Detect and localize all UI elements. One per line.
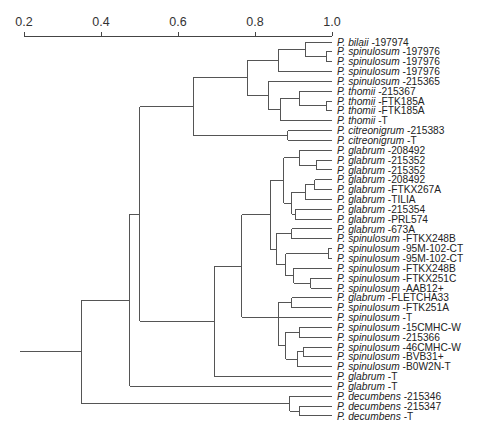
dendrogram-chart: 0.20.40.60.81.0 P. bilaii -197974P. spin… xyxy=(0,0,479,432)
similarity-axis: 0.20.40.60.81.0 xyxy=(15,15,340,36)
dendrogram-branches xyxy=(20,42,332,416)
axis-tick-label: 0.6 xyxy=(169,15,186,29)
axis-tick-label: 0.2 xyxy=(15,15,32,29)
leaf-genus: P. xyxy=(337,411,348,422)
axis-tick-label: 1.0 xyxy=(323,15,340,29)
leaf-labels: P. bilaii -197974P. spinulosum -197976P.… xyxy=(337,37,463,422)
leaf-strain: -B0W2N-T xyxy=(403,361,451,372)
leaf-label: P. decumbens -T xyxy=(337,411,413,422)
axis-tick-label: 0.8 xyxy=(246,15,263,29)
leaf-species: decumbens xyxy=(348,411,404,422)
axis-tick-label: 0.4 xyxy=(92,15,109,29)
leaf-strain: -T xyxy=(404,411,414,422)
